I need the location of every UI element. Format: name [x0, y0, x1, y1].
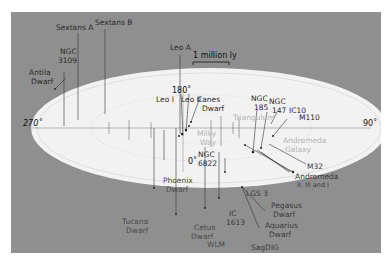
pegasus-label-2: Dwarf [273, 210, 296, 219]
milky-way-label: Milky [197, 129, 217, 138]
milky-way-label-2: Way [200, 138, 217, 147]
ic1613-label-2: 1613 [226, 218, 245, 227]
ngc147-label: NGC [269, 97, 286, 106]
wlm-label: WLM [207, 240, 225, 249]
angle-180-label: 180˚ [172, 85, 191, 95]
scale-bar-label: 1 million ly [193, 51, 237, 60]
andromeda-satellites-label: Andromeda [295, 172, 338, 181]
ngc185-label-2: 185 [254, 103, 269, 112]
tucana-label-2: Dwarf [126, 226, 149, 235]
andromeda-satellites-label-2: II, III and I [297, 181, 329, 189]
aquarius-label: Aquarius [265, 221, 298, 230]
scale-bar: 1 million ly [193, 51, 237, 65]
andromeda-galaxy-label: Andromeda [283, 136, 326, 145]
m110-label: M110 [299, 113, 320, 122]
tucana-label: Tucana [121, 217, 148, 226]
ic1613-label: IC [229, 209, 236, 218]
phoenix-label-2: Dwarf [166, 185, 189, 194]
angle-90-label: 90˚ [363, 118, 377, 128]
antlia-label: Antila [29, 68, 51, 77]
m32-label: M32 [307, 162, 323, 171]
andromeda-galaxy-label-2: Galaxy [285, 145, 312, 154]
aquarius-label-2: Dwarf [269, 230, 292, 239]
ngc3109-label-2: 3109 [58, 56, 77, 65]
sagdig-label: SagDIG [251, 243, 279, 252]
canes-label-2: Dwarf [202, 104, 225, 113]
lgs3-label: LGS 3 [246, 189, 268, 198]
angle-0-label: 0˚ [188, 156, 197, 166]
leo-a-label: Leo A [170, 43, 192, 52]
triangulum-label: Triangulum [232, 113, 275, 122]
ngc6822-label: NGC [198, 150, 215, 159]
pegasus-label: Pegasus [271, 201, 302, 210]
phoenix-label: Phoenix [163, 176, 193, 185]
diagram-canvas: 1 million ly 270˚ 90˚ 180˚ 0˚ [11, 12, 381, 253]
ngc185-label: NGC [251, 94, 268, 103]
leo-i-label: Leo I [156, 95, 174, 104]
ngc6822-label-2: 6822 [198, 159, 217, 168]
canes-label: Canes [197, 95, 220, 104]
sextans-b-label: Sextans B [95, 18, 132, 27]
ngc3109-label: NGC [60, 47, 77, 56]
local-group-diagram: 1 million ly 270˚ 90˚ 180˚ 0˚ [11, 12, 381, 253]
cetus-label: Cetus [194, 223, 216, 232]
sextans-a-label: Sextans A [56, 23, 94, 32]
angle-270-label: 270˚ [23, 118, 42, 128]
antlia-label-2: Dwarf [31, 77, 54, 86]
